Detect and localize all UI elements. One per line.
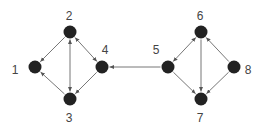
node-7 [195, 93, 208, 106]
edge-2-1 [40, 37, 64, 61]
node-label-7: 7 [197, 112, 204, 124]
node-label-5: 5 [153, 44, 160, 56]
edge-4-3 [75, 72, 96, 93]
node-4 [96, 61, 109, 74]
nodes-layer [29, 26, 241, 106]
edge-3-1 [41, 72, 65, 94]
node-label-2: 2 [66, 10, 73, 22]
edge-8-7 [206, 72, 228, 94]
edge-8-6 [206, 37, 229, 61]
edges-layer [40, 37, 229, 94]
edge-5-6 [173, 37, 196, 61]
graph-canvas [0, 0, 267, 132]
node-1 [29, 61, 42, 74]
node-5 [162, 61, 175, 74]
node-label-6: 6 [197, 10, 204, 22]
edge-5-7 [173, 72, 195, 94]
node-6 [195, 26, 208, 39]
node-label-1: 1 [12, 64, 19, 76]
node-8 [228, 61, 241, 74]
edge-2-4 [75, 38, 97, 62]
node-3 [64, 93, 77, 106]
node-2 [64, 26, 77, 39]
node-label-8: 8 [245, 64, 252, 76]
node-label-3: 3 [66, 112, 73, 124]
node-label-4: 4 [102, 44, 109, 56]
